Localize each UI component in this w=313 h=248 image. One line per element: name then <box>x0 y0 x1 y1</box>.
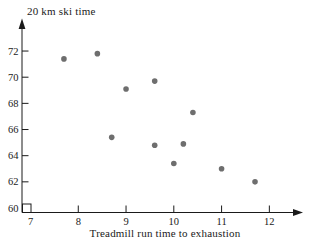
scatter-figure: 20 km ski time 60626466687072789101112 T… <box>0 0 313 248</box>
data-point <box>181 141 187 147</box>
x-tick-label: 10 <box>169 216 180 227</box>
y-tick-label: 66 <box>8 124 19 135</box>
data-point <box>219 166 225 172</box>
data-point <box>109 135 115 141</box>
data-point <box>190 110 196 116</box>
data-point <box>61 56 67 62</box>
x-axis-title: Treadmill run time to exhaustion <box>40 227 290 239</box>
data-point <box>123 86 129 92</box>
x-axis-arrow-icon <box>293 209 303 216</box>
y-tick-label: 64 <box>8 150 19 161</box>
x-tick-label: 9 <box>123 216 128 227</box>
scatter-chart-canvas: 60626466687072789101112 <box>0 0 313 248</box>
y-tick-label: 60 <box>8 203 19 214</box>
y-axis-arrow-icon <box>19 19 26 30</box>
axis-break-box <box>23 204 32 213</box>
y-tick-label: 70 <box>8 72 19 83</box>
y-tick-label: 68 <box>8 98 19 109</box>
x-tick-label: 11 <box>217 216 227 227</box>
data-point <box>152 142 158 148</box>
x-tick-label: 7 <box>28 216 33 227</box>
data-point <box>95 51 101 57</box>
y-tick-label: 72 <box>8 46 19 57</box>
y-tick-label: 62 <box>8 176 19 187</box>
data-point <box>171 161 177 167</box>
x-tick-label: 12 <box>264 216 275 227</box>
x-tick-label: 8 <box>76 216 81 227</box>
data-point <box>152 78 158 84</box>
data-point <box>252 179 258 185</box>
